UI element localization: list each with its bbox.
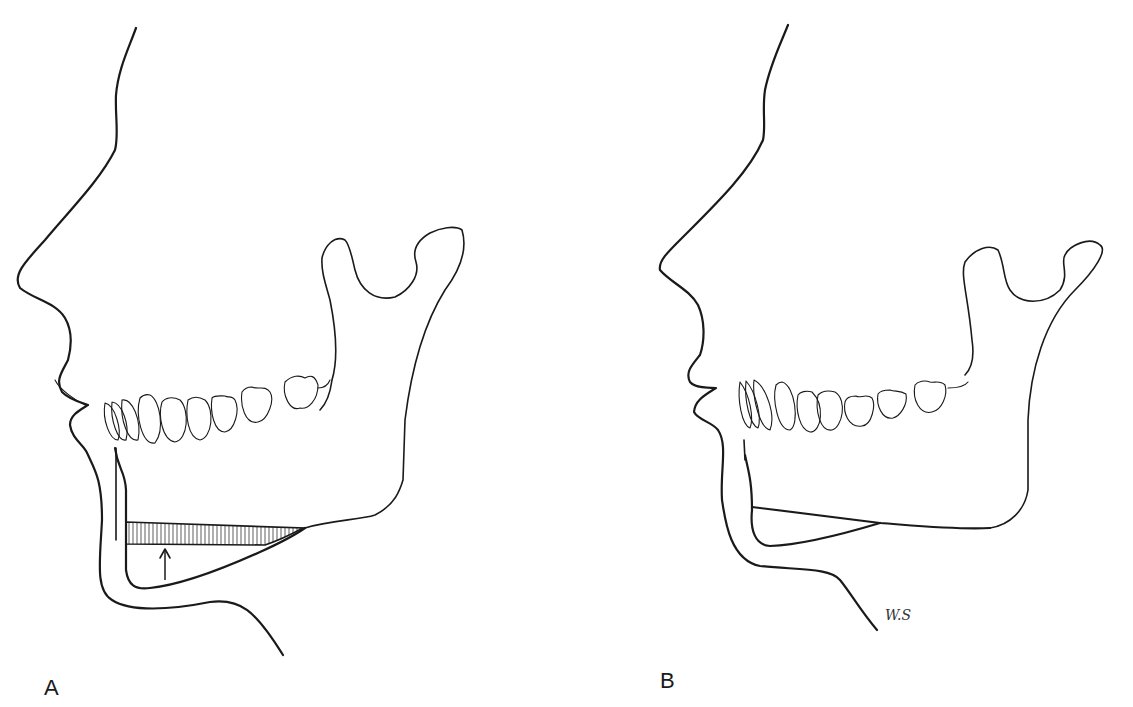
mandible-b (744, 241, 1102, 528)
bone-segment-hatched (126, 522, 303, 545)
face-profile-b (660, 25, 877, 630)
panel-label-b: B (660, 668, 675, 694)
mandible-a (116, 227, 464, 540)
arrow-up-icon (160, 549, 170, 580)
teeth-a (104, 376, 330, 443)
panel-b-drawing (660, 25, 1103, 630)
face-profile-a (18, 28, 283, 655)
artist-signature: W.S (885, 607, 911, 623)
panel-label-a: A (44, 675, 59, 701)
inner-chin-a (115, 448, 305, 588)
panel-a-drawing (18, 28, 464, 655)
inner-chin-b (745, 455, 880, 546)
teeth-b (739, 380, 968, 432)
illustration (0, 0, 1133, 707)
